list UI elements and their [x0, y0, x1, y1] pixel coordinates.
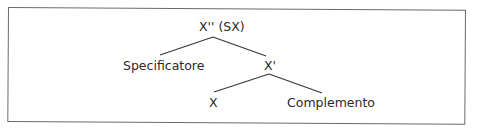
edge-root-xbar [213, 37, 266, 56]
node-specifier: Specificatore [123, 59, 204, 73]
node-head: X [209, 96, 218, 110]
edge-root-specifier [160, 37, 213, 55]
node-root: X'' (SX) [199, 20, 245, 34]
node-complement: Complemento [287, 96, 375, 110]
node-x-bar: X' [264, 59, 276, 73]
edge-xbar-head [214, 74, 269, 92]
edge-xbar-complement [269, 74, 322, 93]
